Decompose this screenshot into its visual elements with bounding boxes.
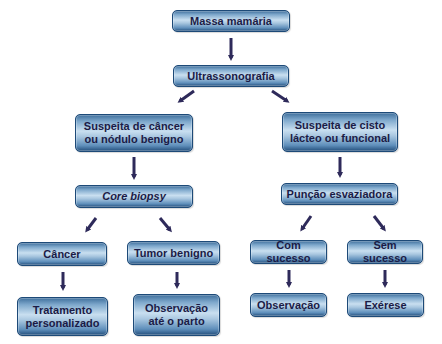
node-tratamento-personalizado: Tratamento personalizado bbox=[17, 297, 108, 336]
node-massa-mamaria: Massa mamária bbox=[172, 10, 290, 32]
node-suspeita-cisto: Suspeita de cisto lácteo ou funcional bbox=[282, 112, 398, 152]
node-label: Punção esvaziadora bbox=[287, 188, 393, 201]
arrow-ultrassom-to-suspeita-cisto bbox=[272, 91, 287, 101]
arrow-puncao-to-com-sucesso bbox=[302, 216, 311, 229]
node-sem-sucesso: Sem sucesso bbox=[347, 240, 423, 264]
node-label: Core biopsy bbox=[102, 190, 166, 203]
node-label: Observação bbox=[257, 299, 320, 312]
node-label-line2: ou nódulo benigno bbox=[85, 133, 184, 146]
node-exerese: Exérese bbox=[347, 293, 424, 317]
node-label-line1: Suspeita de câncer bbox=[84, 120, 184, 133]
node-label-line1: Observação bbox=[145, 302, 208, 315]
node-observacao: Observação bbox=[250, 293, 327, 317]
node-label-line2: até o parto bbox=[148, 315, 204, 328]
node-label-line2: personalizado bbox=[26, 317, 100, 330]
node-tumor-benigno: Tumor benigno bbox=[127, 241, 220, 265]
node-label: Tumor benigno bbox=[134, 247, 213, 260]
node-ultrassonografia: Ultrassonografia bbox=[173, 65, 289, 87]
node-core-biopsy: Core biopsy bbox=[75, 185, 193, 208]
node-label-line1: Suspeita de cisto bbox=[295, 119, 385, 132]
node-cancer: Câncer bbox=[17, 242, 107, 266]
node-label-line1: Tratamento bbox=[33, 304, 92, 317]
node-observacao-ate-o-parto: Observação até o parto bbox=[133, 294, 220, 336]
arrow-core-to-tumor bbox=[160, 218, 170, 230]
node-label: Massa mamária bbox=[190, 15, 272, 28]
node-label: Com sucesso bbox=[254, 239, 323, 265]
arrow-core-to-cancer bbox=[87, 218, 96, 230]
node-suspeita-cancer: Suspeita de câncer ou nódulo benigno bbox=[75, 114, 193, 152]
node-label-line2: lácteo ou funcional bbox=[290, 132, 390, 145]
node-puncao-esvaziadora: Punção esvaziadora bbox=[281, 183, 398, 205]
arrow-ultrassom-to-suspeita-cancer bbox=[180, 91, 194, 101]
node-com-sucesso: Com sucesso bbox=[250, 240, 327, 264]
node-label: Câncer bbox=[43, 248, 80, 261]
node-label: Exérese bbox=[364, 299, 406, 312]
arrow-puncao-to-sem-sucesso bbox=[374, 216, 384, 229]
node-label: Ultrassonografia bbox=[187, 70, 274, 83]
node-label: Sem sucesso bbox=[351, 239, 419, 265]
